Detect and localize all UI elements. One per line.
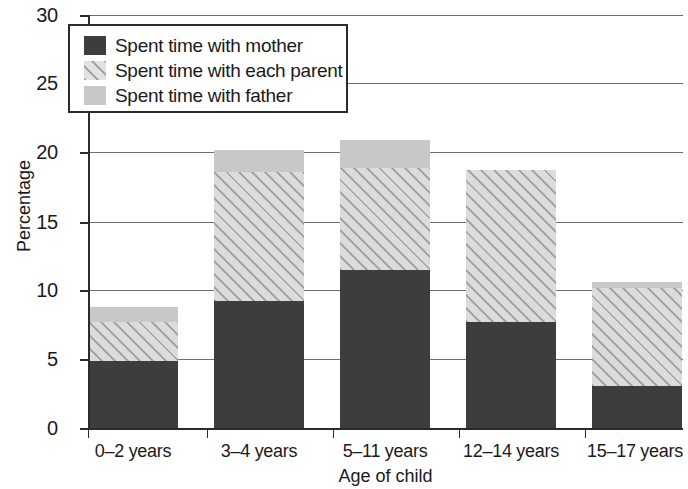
x-tick-2 xyxy=(333,429,334,438)
x-tick-1 xyxy=(207,429,208,438)
x-tick-label-4: 15–17 years xyxy=(572,441,688,461)
x-axis xyxy=(88,428,683,430)
bar-segment-mother-1[interactable] xyxy=(214,301,304,428)
x-tick-label-1: 3–4 years xyxy=(196,441,322,461)
x-tick-4 xyxy=(585,429,586,438)
x-tick-label-2: 5–11 years xyxy=(322,441,448,461)
legend-item-mother: Spent time with mother xyxy=(84,33,346,58)
bar-segment-each-parent-0[interactable] xyxy=(88,322,178,361)
bar-segment-mother-0[interactable] xyxy=(88,361,178,428)
x-tick-3 xyxy=(459,429,460,438)
legend: Spent time with mother Spent time with e… xyxy=(68,24,348,113)
y-tick-label-25: 25 xyxy=(14,73,58,93)
bar-segment-mother-3[interactable] xyxy=(466,322,556,428)
legend-label-father: Spent time with father xyxy=(115,85,292,106)
x-tick-label-3: 12–14 years xyxy=(448,441,574,461)
legend-swatch-father-icon xyxy=(84,86,106,105)
x-tick-label-0: 0–2 years xyxy=(70,441,196,461)
bar-segment-each-parent-2[interactable] xyxy=(340,168,430,270)
y-tick-label-0: 0 xyxy=(14,418,58,438)
legend-item-each-parent: Spent time with each parent xyxy=(84,58,346,83)
x-axis-title: Age of child xyxy=(88,466,683,486)
legend-swatch-mother-icon xyxy=(84,36,106,55)
bar-segment-mother-4[interactable] xyxy=(592,386,682,428)
bar-segment-father-1[interactable] xyxy=(214,150,304,172)
bar-segment-mother-2[interactable] xyxy=(340,270,430,428)
bar-segment-each-parent-1[interactable] xyxy=(214,172,304,301)
y-axis-title: Percentage xyxy=(14,126,34,286)
bar-segment-each-parent-4[interactable] xyxy=(592,288,682,386)
y-tick-label-30: 30 xyxy=(14,5,58,25)
legend-swatch-each-parent-icon xyxy=(84,61,106,80)
gridline-30 xyxy=(88,15,683,16)
bar-segment-father-2[interactable] xyxy=(340,140,430,168)
bar-segment-each-parent-3[interactable] xyxy=(466,170,556,322)
legend-label-mother: Spent time with mother xyxy=(115,35,303,56)
bar-segment-father-0[interactable] xyxy=(88,307,178,322)
x-tick-0 xyxy=(88,429,89,438)
legend-item-father: Spent time with father xyxy=(84,83,346,108)
legend-label-each-parent: Spent time with each parent xyxy=(115,60,342,81)
y-tick-label-5: 5 xyxy=(14,349,58,369)
